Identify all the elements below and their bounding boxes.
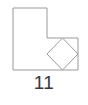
figure-number-label: 11 xyxy=(0,72,88,94)
figure-container: 11 xyxy=(0,0,88,105)
